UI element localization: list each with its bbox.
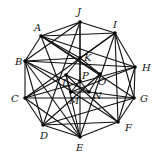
- vertex-E: [78, 135, 82, 139]
- vertex-K: [78, 56, 82, 60]
- edge-I-A: [41, 33, 115, 36]
- vertex-N: [87, 90, 91, 94]
- vertex-label-G: G: [140, 93, 148, 104]
- vertex-label-B: B: [14, 56, 22, 67]
- vertex-label-C: C: [11, 93, 19, 104]
- vertex-B: [23, 59, 27, 63]
- vertex-H: [133, 65, 137, 69]
- graph-labels: ABCDEFGHIJKLMNOP: [11, 6, 151, 153]
- vertex-I: [113, 31, 117, 35]
- vertex-label-L: L: [61, 77, 69, 88]
- vertex-label-D: D: [39, 130, 48, 141]
- vertex-D: [41, 123, 45, 127]
- edge-A-J: [41, 22, 80, 36]
- vertex-label-N: N: [92, 90, 103, 101]
- vertex-label-O: O: [98, 76, 106, 87]
- edge-F-I: [115, 33, 118, 122]
- vertex-label-H: H: [141, 62, 151, 73]
- vertex-F: [116, 120, 120, 124]
- edge-J-I: [80, 22, 115, 33]
- vertex-label-P: P: [81, 70, 89, 81]
- vertex-label-M: M: [68, 95, 80, 106]
- vertex-label-J: J: [75, 6, 82, 17]
- vertex-label-A: A: [33, 22, 41, 33]
- vertex-A: [39, 34, 43, 38]
- vertex-J: [78, 20, 82, 24]
- vertex-label-E: E: [75, 142, 84, 153]
- edge-B-K: [25, 58, 80, 61]
- edge-H-G: [134, 67, 135, 98]
- vertex-label-I: I: [112, 19, 118, 30]
- vertex-G: [132, 96, 136, 100]
- edge-E-D: [43, 125, 80, 137]
- edge-D-J: [43, 22, 80, 125]
- edge-F-E: [80, 122, 118, 137]
- edge-D-C: [25, 98, 43, 125]
- vertex-M: [69, 90, 73, 94]
- vertex-C: [23, 96, 27, 100]
- vertex-label-K: K: [83, 52, 92, 63]
- edge-B-A: [25, 36, 41, 61]
- vertex-label-F: F: [124, 122, 133, 133]
- edge-A-G: [41, 36, 134, 98]
- graph-diagram: ABCDEFGHIJKLMNOP: [0, 0, 160, 162]
